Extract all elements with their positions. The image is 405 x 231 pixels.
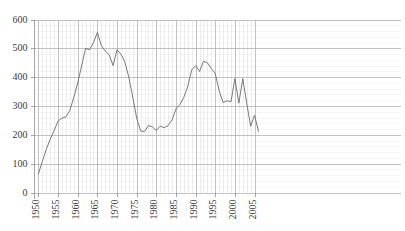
y-axis-tick-label: 600 [13,14,28,25]
x-axis-tick-label: 1995 [207,200,218,220]
x-axis-tick-label: 1990 [188,200,199,220]
x-axis-tick-label: 1970 [109,200,120,220]
x-axis-tick-label: 1955 [50,200,61,220]
y-axis-tick-label: 100 [13,158,28,169]
x-axis-tick-label: 1975 [129,200,140,220]
x-axis-tick-label: 2005 [247,200,258,220]
y-axis-tick-label: 0 [23,187,28,198]
chart-canvas: 0100200300400500600195019551960196519701… [0,0,405,231]
y-axis-tick-label: 500 [13,42,28,53]
x-axis-tick-label: 1950 [30,200,41,220]
x-axis-tick-label: 2000 [227,200,238,220]
line-chart: 0100200300400500600195019551960196519701… [0,0,405,231]
y-axis-tick-label: 200 [13,129,28,140]
x-axis-tick-label: 1985 [168,200,179,220]
y-axis-tick-label: 300 [13,100,28,111]
x-axis-tick-label: 1965 [89,200,100,220]
x-axis-tick-label: 1980 [148,200,159,220]
y-axis-tick-label: 400 [13,71,28,82]
x-axis-tick-label: 1960 [70,200,81,220]
